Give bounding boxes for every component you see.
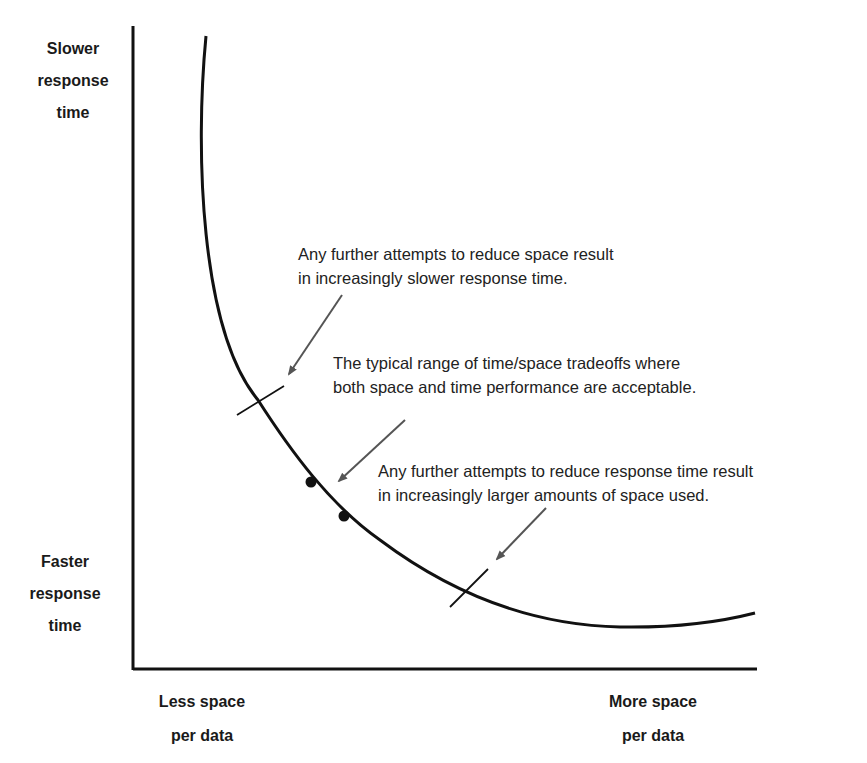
label-line: response xyxy=(13,65,133,97)
space-limit-tick xyxy=(237,386,284,415)
label-line: per data xyxy=(132,719,272,753)
label-line: response xyxy=(5,578,125,610)
note-line: Any further attempts to reduce space res… xyxy=(298,242,614,266)
x-axis-low-label: Less space per data xyxy=(132,685,272,753)
label-line: time xyxy=(13,97,133,129)
typical-range-end-dot xyxy=(339,511,350,522)
note-time-limit: Any further attempts to reduce response … xyxy=(378,459,753,507)
label-line: Slower xyxy=(13,33,133,65)
note-line: The typical range of time/space tradeoff… xyxy=(333,351,696,375)
arrow-time-limit xyxy=(497,508,546,559)
label-line: Less space xyxy=(132,685,272,719)
note-space-limit: Any further attempts to reduce space res… xyxy=(298,242,614,290)
typical-range-start-dot xyxy=(306,477,317,488)
x-axis-high-label: More space per data xyxy=(583,685,723,753)
label-line: Faster xyxy=(5,546,125,578)
label-line: More space xyxy=(583,685,723,719)
y-axis-high-label: Slower response time xyxy=(13,33,133,129)
note-line: Any further attempts to reduce response … xyxy=(378,459,753,483)
note-line: both space and time performance are acce… xyxy=(333,375,696,399)
note-line: in increasingly slower response time. xyxy=(298,266,614,290)
label-line: time xyxy=(5,610,125,642)
note-line: in increasingly larger amounts of space … xyxy=(378,483,753,507)
label-line: per data xyxy=(583,719,723,753)
tradeoff-curve xyxy=(201,36,755,627)
y-axis-low-label: Faster response time xyxy=(5,546,125,642)
note-typical-range: The typical range of time/space tradeoff… xyxy=(333,351,696,399)
